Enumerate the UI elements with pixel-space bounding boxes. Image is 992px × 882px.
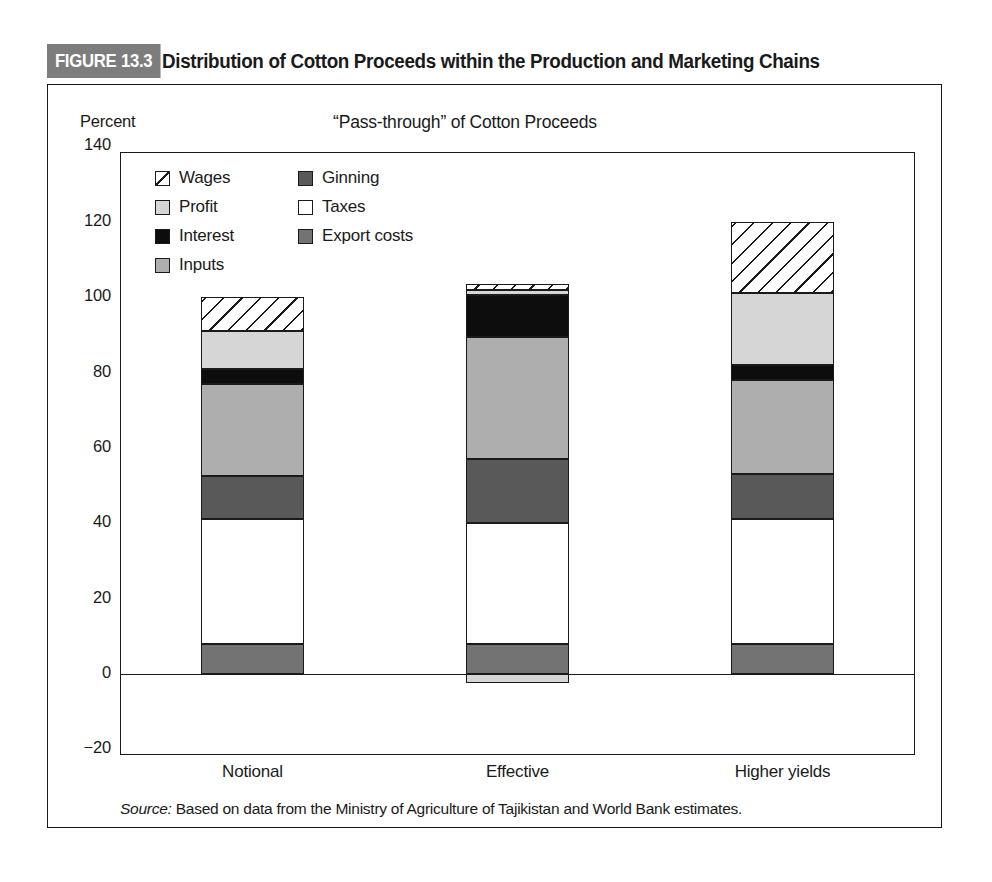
legend-item-wages[interactable]: Wages [155, 168, 230, 188]
source-text: Based on data from the Ministry of Agric… [172, 800, 742, 817]
legend-label: Wages [179, 168, 230, 188]
segment-inputs [731, 380, 834, 474]
legend-swatch-ginning-icon [298, 171, 313, 186]
segment-profit [731, 293, 834, 365]
legend-item-interest[interactable]: Interest [155, 226, 234, 246]
legend-swatch-export-costs-icon [298, 229, 313, 244]
segment-ginning [201, 476, 304, 519]
bar-effective [466, 0, 569, 882]
legend-label: Interest [179, 226, 234, 246]
segment-interest [201, 369, 304, 384]
x-tick-label-effective: Effective [398, 762, 638, 782]
figure-header: FIGURE 13.3 Distribution of Cotton Proce… [47, 44, 843, 78]
y-tick-label: 40 [55, 512, 111, 531]
segment-inputs [466, 337, 569, 459]
legend-swatch-wages-icon [155, 171, 170, 186]
y-axis-title: Percent [80, 112, 135, 131]
legend-swatch-profit-icon [155, 200, 170, 215]
y-tick-label: 140 [55, 135, 111, 154]
y-tick-label: 80 [55, 362, 111, 381]
legend-item-taxes[interactable]: Taxes [298, 197, 365, 217]
y-tick-label: 20 [55, 588, 111, 607]
segment-interest [466, 295, 569, 336]
legend-swatch-interest-icon [155, 229, 170, 244]
x-tick-label-notional: Notional [133, 762, 373, 782]
legend-label: Profit [179, 197, 217, 217]
segment-wages [731, 222, 834, 294]
segment-export-costs [466, 644, 569, 674]
segment-ginning [731, 474, 834, 519]
legend-item-ginning[interactable]: Ginning [298, 168, 379, 188]
figure-number-badge: FIGURE 13.3 [47, 44, 160, 78]
legend-label: Export costs [322, 226, 413, 246]
segment-wages [201, 297, 304, 331]
segment-profit [201, 331, 304, 369]
bar-higher-yields [731, 0, 834, 882]
figure-container: FIGURE 13.3 Distribution of Cotton Proce… [0, 0, 992, 882]
y-tick-label: 60 [55, 437, 111, 456]
segment-export-costs [731, 644, 834, 674]
bar-notional [201, 0, 304, 882]
segment-ginning [466, 459, 569, 523]
legend-item-inputs[interactable]: Inputs [155, 255, 224, 275]
segment-taxes [466, 523, 569, 644]
source-note: Source: Based on data from the Ministry … [120, 800, 742, 818]
segment-profit [466, 290, 569, 296]
segment-inputs [201, 384, 304, 476]
y-tick-label: 0 [55, 663, 111, 682]
legend-swatch-inputs-icon [155, 258, 170, 273]
x-tick-label-higher-yields: Higher yields [663, 762, 903, 782]
segment-taxes [201, 519, 304, 643]
source-label: Source: [120, 800, 172, 817]
legend-item-profit[interactable]: Profit [155, 197, 217, 217]
legend-swatch-taxes-icon [298, 200, 313, 215]
y-tick-label: 100 [55, 286, 111, 305]
segment-taxes [731, 519, 834, 643]
y-tick-label: 120 [55, 211, 111, 230]
legend-label: Inputs [179, 255, 224, 275]
segment-interest [731, 365, 834, 380]
segment-export-costs [201, 644, 304, 674]
legend-label: Taxes [322, 197, 365, 217]
legend-label: Ginning [322, 168, 379, 188]
segment-negative-profit [466, 674, 569, 683]
legend-item-export-costs[interactable]: Export costs [298, 226, 413, 246]
segment-wages [466, 284, 569, 290]
chart-title: “Pass-through” of Cotton Proceeds [255, 112, 675, 133]
y-tick-label: −20 [55, 738, 111, 757]
